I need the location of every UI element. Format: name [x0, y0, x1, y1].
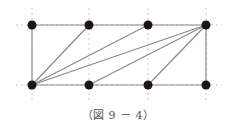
edge-B1-T3: [32, 25, 148, 85]
diagram-edges: [32, 25, 206, 85]
dashed-guide-lines: [16, 8, 222, 100]
point-B2: [85, 81, 94, 90]
point-B1: [28, 81, 37, 90]
edge-B3-T4: [148, 25, 206, 85]
point-T3: [144, 21, 153, 30]
point-T2: [85, 21, 94, 30]
point-B3: [144, 81, 153, 90]
edge-B1-T4: [32, 25, 206, 85]
point-B4: [202, 81, 211, 90]
edge-B1-T2: [32, 25, 89, 85]
point-T1: [28, 21, 37, 30]
figure-caption: （図 9 － 4）: [0, 106, 236, 122]
point-T4: [202, 21, 211, 30]
